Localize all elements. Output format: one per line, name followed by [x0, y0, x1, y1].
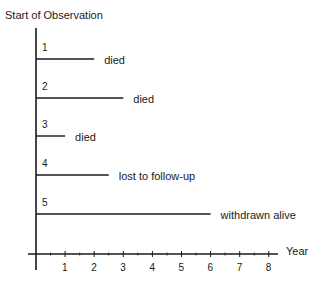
subject-number: 3	[42, 120, 48, 130]
subject-number: 2	[42, 82, 48, 92]
subject-number: 5	[42, 198, 48, 208]
x-tick-label: 1	[62, 263, 68, 273]
x-tick-label: 3	[120, 263, 126, 273]
outcome-label: died	[133, 94, 154, 105]
x-tick-label: 5	[179, 263, 185, 273]
follow-up-chart	[0, 0, 321, 287]
outcome-label: lost to follow-up	[119, 171, 195, 182]
x-tick-label: 6	[208, 263, 214, 273]
subject-number: 4	[42, 159, 48, 169]
x-tick-label: 7	[237, 263, 243, 273]
x-tick-label: 2	[91, 263, 97, 273]
outcome-label: died	[104, 55, 125, 66]
x-tick-label: 8	[266, 263, 272, 273]
outcome-label: withdrawn alive	[221, 210, 296, 221]
subject-number: 1	[42, 43, 48, 53]
outcome-label: died	[75, 132, 96, 143]
chart-title: Start of Observation	[5, 10, 103, 21]
x-tick-label: 4	[149, 263, 155, 273]
x-axis-label: Year	[286, 246, 308, 257]
